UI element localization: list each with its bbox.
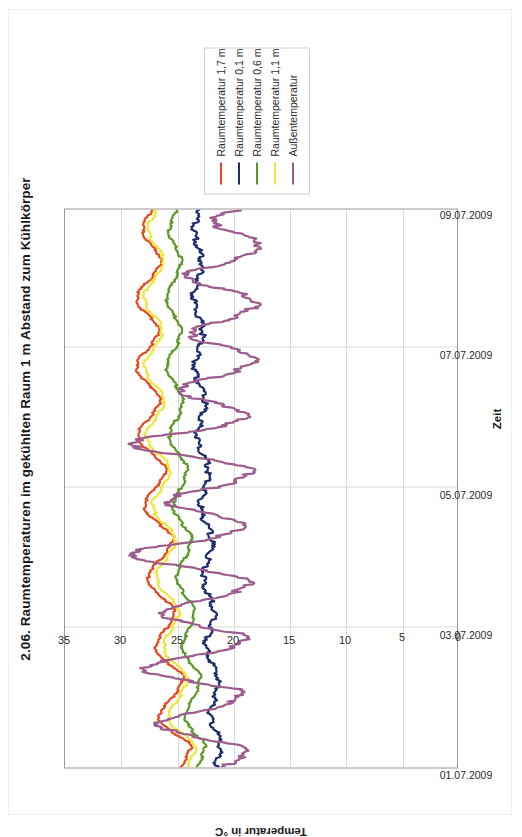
- legend: Raumtemperatur 1,7 mRaumtemperatur 0,1 m…: [204, 47, 310, 194]
- x-axis-title: Zeit: [491, 0, 503, 837]
- y-tick-label: 30: [114, 634, 126, 646]
- x-tick-label: 01.07.2009: [440, 768, 493, 780]
- x-tick-label: 05.07.2009: [440, 488, 493, 500]
- y-axis-title: Temperatur in °C: [215, 825, 307, 837]
- legend-swatch-icon: [238, 162, 240, 184]
- x-tick-label: 09.07.2009: [440, 208, 493, 220]
- legend-item: Raumtemperatur 0,1 m: [230, 57, 248, 184]
- series-layer: [65, 209, 457, 767]
- x-tick-label: 03.07.2009: [440, 628, 493, 640]
- chart-title: 2.06. Raumtemperaturen im gekühlten Raum…: [18, 0, 33, 837]
- legend-swatch-icon: [274, 162, 276, 184]
- y-tick-label: 5: [399, 631, 405, 643]
- legend-swatch-icon: [292, 162, 294, 184]
- legend-label: Raumtemperatur 0,1 m: [233, 48, 245, 156]
- rotated-chart-container: 2.06. Raumtemperaturen im gekühlten Raum…: [0, 0, 522, 837]
- chart-figure: 2.06. Raumtemperaturen im gekühlten Raum…: [0, 0, 522, 837]
- legend-label: Außentemperatur: [287, 74, 299, 156]
- y-tick-label: 20: [227, 634, 239, 646]
- legend-label: Raumtemperatur 1,1 m: [269, 48, 281, 156]
- page-canvas: 2.06. Raumtemperaturen im gekühlten Raum…: [0, 0, 522, 837]
- y-tick-label: 35: [58, 634, 70, 646]
- legend-item: Raumtemperatur 1,1 m: [266, 57, 284, 184]
- series-line: [143, 209, 197, 767]
- y-tick-label: 10: [339, 634, 351, 646]
- legend-label: Raumtemperatur 1,7 m: [215, 48, 227, 156]
- x-tick-label: 07.07.2009: [440, 348, 493, 360]
- y-tick-label: 15: [283, 634, 295, 646]
- legend-item: Raumtemperatur 1,7 m: [212, 57, 230, 184]
- legend-label: Raumtemperatur 0,6 m: [251, 48, 263, 156]
- y-tick-label: 25: [170, 634, 182, 646]
- plot-area: [64, 208, 458, 768]
- legend-item: Raumtemperatur 0,6 m: [248, 57, 266, 184]
- legend-swatch-icon: [256, 162, 258, 184]
- legend-swatch-icon: [220, 162, 222, 184]
- legend-item: Außentemperatur: [284, 57, 302, 184]
